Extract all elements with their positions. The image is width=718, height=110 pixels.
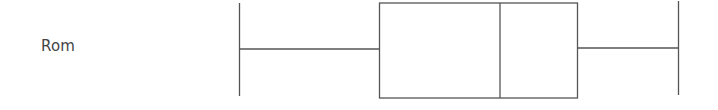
iqr-box — [380, 3, 578, 98]
boxplot-figure — [0, 0, 718, 110]
boxplot-rom — [240, 1, 679, 98]
